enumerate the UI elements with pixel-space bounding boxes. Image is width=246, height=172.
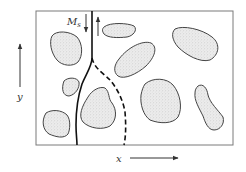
particle bbox=[63, 78, 80, 96]
magnetization-label: Ms bbox=[66, 16, 81, 29]
particle bbox=[141, 79, 181, 122]
particle bbox=[115, 42, 155, 77]
y-axis-label: y bbox=[16, 91, 23, 102]
particle bbox=[51, 32, 82, 65]
particle bbox=[43, 111, 70, 138]
particle bbox=[103, 24, 136, 38]
particle bbox=[195, 85, 224, 130]
diagram-canvas: Ms y x bbox=[0, 0, 246, 172]
particle bbox=[81, 87, 116, 128]
particle bbox=[173, 27, 218, 60]
particles bbox=[43, 24, 223, 138]
x-axis-label: x bbox=[116, 153, 122, 164]
